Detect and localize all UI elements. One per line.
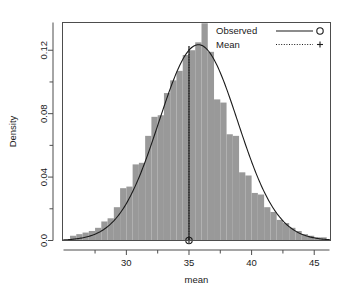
x-axis: 30354045 (64, 250, 330, 268)
y-axis-tick-label: 0.08 (38, 104, 49, 123)
histogram-bar (245, 175, 251, 240)
histogram-bar (164, 93, 170, 240)
histogram-bar (214, 99, 220, 240)
x-axis-tick-label: 35 (184, 257, 195, 268)
x-axis-tick-label: 45 (309, 257, 320, 268)
histogram-bar (202, 23, 208, 240)
legend-label: Mean (216, 39, 240, 50)
histogram-bar (277, 220, 283, 241)
histogram-bar (76, 234, 82, 240)
histogram-bar (239, 172, 245, 240)
legend-circle-icon (317, 28, 323, 34)
histogram-bar (176, 71, 182, 241)
histogram-bar (120, 188, 126, 240)
histogram-bar (270, 212, 276, 241)
histogram-bar (114, 207, 120, 240)
y-axis: 0.00.040.080.12 (38, 23, 53, 248)
y-axis-tick-label: 0.12 (38, 41, 49, 60)
y-axis-title: Density (7, 115, 18, 147)
density-histogram-chart: 30354045 0.00.040.080.12 mean Density Ob… (0, 0, 347, 290)
histogram-bar (264, 207, 270, 240)
legend-label: Observed (216, 25, 257, 36)
histogram-bar (289, 228, 295, 241)
histogram-bar (208, 52, 214, 241)
histogram-bar (183, 55, 189, 240)
histogram-bar (189, 50, 195, 240)
histogram-bar (133, 164, 139, 240)
x-axis-title: mean (185, 274, 209, 285)
x-axis-tick-label: 30 (121, 257, 132, 268)
histogram-bar (258, 195, 264, 241)
histogram-bar (158, 115, 164, 240)
histogram-bar (227, 134, 233, 240)
x-axis-tick-label: 40 (246, 257, 257, 268)
plot-svg: 30354045 0.00.040.080.12 mean Density Ob… (0, 0, 347, 290)
histogram-bars (70, 23, 327, 240)
histogram-bar (195, 42, 201, 240)
histogram-bar (252, 193, 258, 241)
y-axis-tick-label: 0.04 (38, 168, 49, 187)
histogram-bar (233, 136, 239, 241)
chart-legend: ObservedMean (216, 25, 323, 50)
histogram-bar (220, 103, 226, 241)
histogram-bar (170, 80, 176, 240)
y-axis-tick-label: 0.0 (38, 234, 49, 247)
